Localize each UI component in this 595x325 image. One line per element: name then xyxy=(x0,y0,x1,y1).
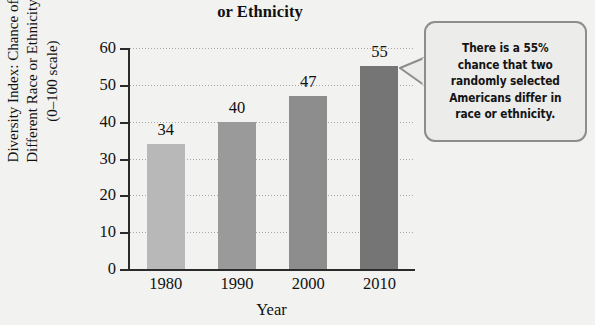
y-tick xyxy=(120,195,128,197)
callout-box: There is a 55% chance that two randomly … xyxy=(424,21,587,142)
y-tick xyxy=(120,48,128,50)
y-tick-label: 50 xyxy=(100,77,117,94)
y-axis-title: Diversity Index: Chance of Different Rac… xyxy=(0,0,74,204)
bar-value-label: 47 xyxy=(300,74,317,91)
y-tick xyxy=(120,85,128,87)
bar-value-label: 55 xyxy=(371,44,388,61)
y-tick xyxy=(120,269,128,271)
chart-figure: Americans Are a Different Race or Ethnic… xyxy=(0,0,595,325)
y-axis-title-line-1: Diversity Index: Chance of xyxy=(3,0,23,163)
callout-line-3: randomly selected xyxy=(449,73,561,90)
x-axis-title: Year xyxy=(128,300,415,320)
bar[interactable] xyxy=(218,122,256,269)
y-axis-title-line-3: (0–100 scale) xyxy=(42,0,62,163)
y-tick-label: 20 xyxy=(100,187,117,204)
chart-title: Americans Are a Different Race or Ethnic… xyxy=(95,0,425,21)
callout-line-4: Americans differ in xyxy=(449,90,561,107)
y-tick xyxy=(120,159,128,161)
callout-text: There is a 55% chance that two randomly … xyxy=(444,40,567,123)
bar[interactable] xyxy=(147,144,185,269)
y-tick-label: 0 xyxy=(108,261,116,278)
y-axis-line xyxy=(128,48,130,271)
y-tick-label: 40 xyxy=(100,113,117,130)
y-tick-label: 30 xyxy=(100,150,117,167)
callout-line-1: There is a 55% xyxy=(449,40,561,57)
callout-line-2: chance that two xyxy=(449,57,561,74)
plot-area: 0102030405060 34404755 1980199020002010 … xyxy=(128,48,413,270)
bar-value-label: 40 xyxy=(229,100,246,117)
callout-line-5: race or ethnicity. xyxy=(449,106,561,123)
x-tick-label: 2010 xyxy=(363,276,396,293)
y-tick xyxy=(120,232,128,234)
x-tick-label: 2000 xyxy=(292,276,325,293)
x-axis-line xyxy=(128,269,415,271)
bar[interactable] xyxy=(360,66,398,269)
x-tick-label: 1990 xyxy=(220,276,253,293)
y-tick-label: 60 xyxy=(100,40,117,57)
bar[interactable] xyxy=(289,96,327,269)
y-axis-title-line-2: Different Race or Ethnicity xyxy=(23,0,43,163)
bar-value-label: 34 xyxy=(157,122,174,139)
chart-title-line-2: or Ethnicity xyxy=(95,2,425,21)
x-tick-label: 1980 xyxy=(149,276,182,293)
y-tick xyxy=(120,122,128,124)
y-tick-label: 10 xyxy=(100,224,117,241)
